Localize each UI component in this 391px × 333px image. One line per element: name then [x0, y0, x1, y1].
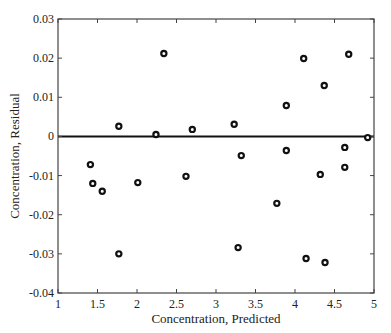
plot-frame	[58, 19, 374, 293]
data-point	[303, 256, 308, 261]
y-tick-label: -0.01	[29, 169, 54, 183]
x-tick-label: 3	[213, 297, 219, 311]
data-point	[342, 165, 347, 170]
axes-box	[58, 19, 374, 293]
residual-scatter-plot: 11.522.533.544.55-0.04-0.03-0.02-0.0100.…	[0, 0, 391, 333]
data-point	[322, 83, 327, 88]
data-point	[301, 56, 306, 61]
x-tick-label: 5	[371, 297, 377, 311]
x-tick-label: 4.5	[327, 297, 342, 311]
data-point	[116, 251, 121, 256]
data-point	[153, 132, 158, 137]
data-point	[239, 153, 244, 158]
y-tick-label: -0.02	[29, 208, 54, 222]
data-point	[190, 127, 195, 132]
x-tick-label: 1.5	[90, 297, 105, 311]
data-point	[183, 174, 188, 179]
data-point	[274, 201, 279, 206]
data-point	[318, 172, 323, 177]
data-points	[88, 51, 370, 265]
x-tick-label: 2	[134, 297, 140, 311]
data-point	[365, 135, 370, 140]
data-point	[90, 181, 95, 186]
y-tick-label: -0.04	[29, 286, 54, 300]
y-tick-label: 0.01	[33, 90, 54, 104]
data-point	[116, 124, 121, 129]
y-tick-label: -0.03	[29, 247, 54, 261]
y-axis-label: Concentration, Residual	[7, 93, 22, 219]
data-point	[135, 180, 140, 185]
y-tick-label: 0.02	[33, 51, 54, 65]
data-point	[88, 162, 93, 167]
data-point	[232, 122, 237, 127]
x-tick-label: 2.5	[169, 297, 184, 311]
y-tick-label: 0.03	[33, 12, 54, 26]
data-point	[284, 103, 289, 108]
data-point	[322, 260, 327, 265]
data-point	[284, 148, 289, 153]
x-tick-label: 1	[55, 297, 61, 311]
data-point	[236, 245, 241, 250]
x-tick-label: 4	[292, 297, 298, 311]
data-point	[342, 145, 347, 150]
y-tick-label: 0	[48, 129, 54, 143]
data-point	[161, 51, 166, 56]
x-tick-label: 3.5	[248, 297, 263, 311]
data-point	[100, 189, 105, 194]
data-point	[346, 52, 351, 57]
x-axis-label: Concentration, Predicted	[151, 311, 281, 326]
